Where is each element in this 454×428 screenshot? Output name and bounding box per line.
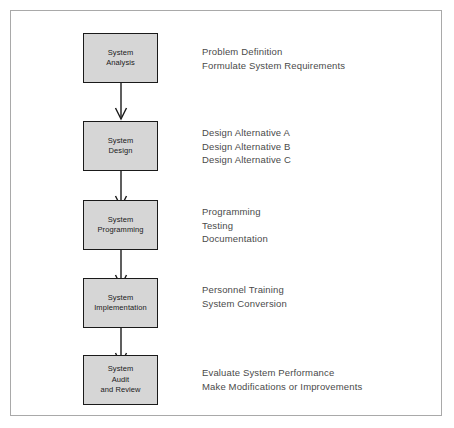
annotation-line: Formulate System Requirements [202,59,442,73]
annotation-line: Testing [202,219,442,233]
process-box-label-line: System [108,215,134,226]
annotation-group-system-programming: Programming Testing Documentation [202,205,442,246]
process-box-label-line: Design [109,146,133,157]
process-box-label-line: System [108,48,134,59]
process-box-system-analysis: System Analysis [83,33,158,83]
process-box-label-line: System [108,136,134,147]
process-box-label-line: Audit [112,375,130,386]
flow-stage: System Analysis Problem Definition Formu… [0,0,454,428]
annotation-group-system-design: Design Alternative A Design Alternative … [202,126,442,167]
process-box-label-line: and Review [100,385,140,396]
annotation-group-system-analysis: Problem Definition Formulate System Requ… [202,45,442,72]
process-box-system-audit-and-review: System Audit and Review [83,355,158,405]
annotation-line: Make Modifications or Improvements [202,380,442,394]
process-box-system-design: System Design [83,121,158,171]
flowchart-diagram: System Analysis Problem Definition Formu… [0,0,454,428]
annotation-line: Evaluate System Performance [202,366,442,380]
connector-arrow-1 [113,83,129,121]
process-box-label-line: Implementation [94,303,147,314]
annotation-line: System Conversion [202,297,442,311]
annotation-line: Problem Definition [202,45,442,59]
process-box-label-line: System [108,293,134,304]
annotation-line: Design Alternative B [202,140,442,154]
annotation-line: Documentation [202,232,442,246]
process-box-system-implementation: System Implementation [83,278,158,328]
annotation-line: Personnel Training [202,283,442,297]
annotation-line: Programming [202,205,442,219]
process-box-label-line: Analysis [106,58,135,69]
process-box-label-line: Programming [97,225,143,236]
annotation-line: Design Alternative A [202,126,442,140]
process-box-system-programming: System Programming [83,200,158,250]
arrow-down-icon [113,83,129,121]
annotation-group-system-audit-and-review: Evaluate System Performance Make Modific… [202,366,442,393]
process-box-label-line: System [108,364,134,375]
annotation-group-system-implementation: Personnel Training System Conversion [202,283,442,310]
annotation-line: Design Alternative C [202,153,442,167]
